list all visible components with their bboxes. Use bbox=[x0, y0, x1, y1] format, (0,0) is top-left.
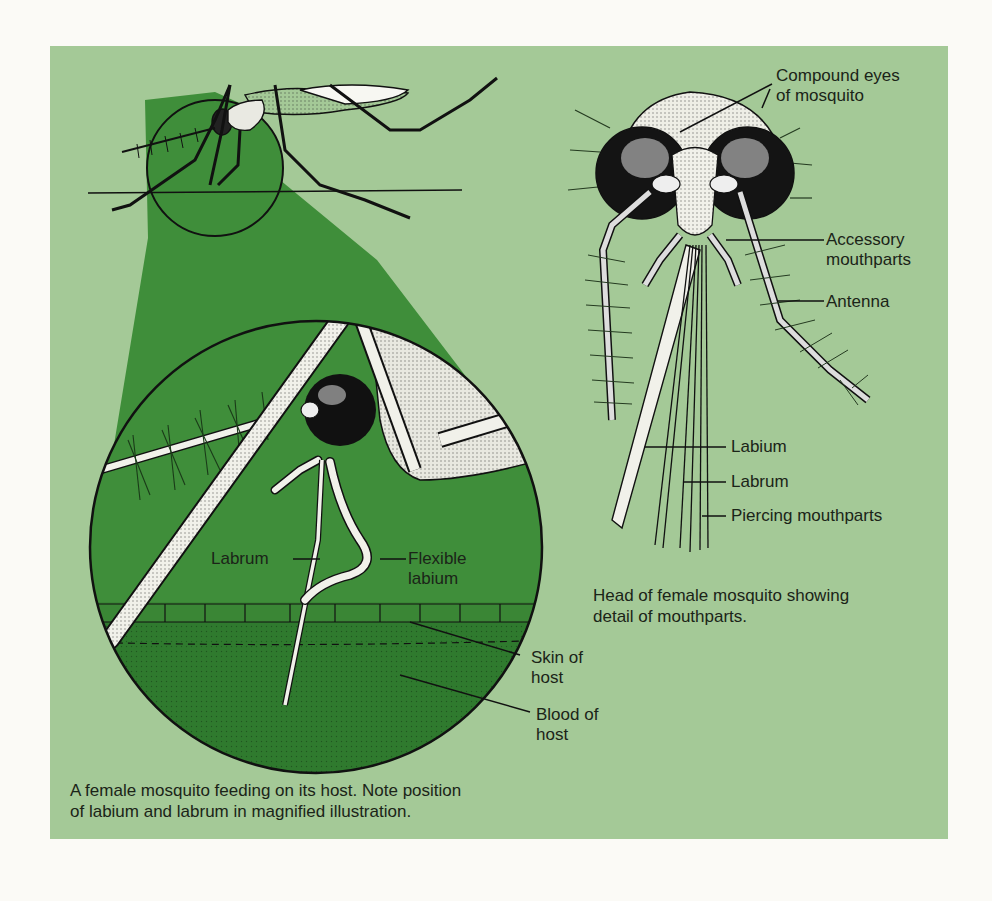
label-skin-of-host: Skin of host bbox=[531, 648, 583, 688]
magnified-view-circle bbox=[80, 318, 560, 815]
label-blood-of-host: Blood of host bbox=[536, 705, 598, 745]
label-compound-eyes: Compound eyes of mosquito bbox=[776, 66, 900, 106]
label-piercing-mouthparts: Piercing mouthparts bbox=[731, 506, 882, 526]
label-antenna: Antenna bbox=[826, 292, 889, 312]
label-accessory-mouthparts: Accessory mouthparts bbox=[826, 230, 911, 270]
caption-head-detail: Head of female mosquito showing detail o… bbox=[593, 585, 849, 627]
caption-feeding: A female mosquito feeding on its host. N… bbox=[70, 780, 461, 822]
label-labium: Labium bbox=[731, 437, 787, 457]
label-labrum-magnified: Labrum bbox=[211, 549, 269, 569]
label-labrum: Labrum bbox=[731, 472, 789, 492]
mosquito-head-front-view bbox=[568, 92, 868, 552]
label-flexible-labium: Flexible labium bbox=[408, 549, 467, 589]
mosquito-illustration bbox=[0, 0, 992, 901]
